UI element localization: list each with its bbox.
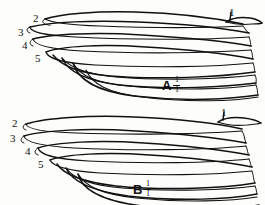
figure-a-edge-hook-3 bbox=[251, 50, 253, 59]
figure-b-edge-hook-2 bbox=[246, 146, 249, 155]
figure-a-band-4-upper bbox=[33, 34, 251, 46]
figure-b-label-3: 3 bbox=[10, 133, 16, 144]
figure-b-scale-numerator: 1 bbox=[145, 180, 151, 188]
figure-a-band-3-lower bbox=[30, 27, 249, 39]
figure-a-edge-hook-2 bbox=[249, 37, 251, 46]
figure-a-label-3: 3 bbox=[18, 27, 24, 38]
figure-a-label-5: 5 bbox=[35, 53, 41, 64]
figure-b-edge-hook-5 bbox=[255, 186, 257, 194]
figure-b-label-1: 1 bbox=[221, 107, 227, 118]
figure-b-band-2-lower bbox=[26, 124, 242, 134]
figure-b-band-2-tip bbox=[23, 124, 26, 130]
figure-b-edge-hook-1 bbox=[242, 131, 246, 143]
figure-a-band-2-lower bbox=[45, 19, 243, 28]
figure-b-caption: B 1 1 bbox=[133, 180, 151, 198]
figure-a-label-2: 2 bbox=[33, 13, 39, 24]
figure-a-scale-numerator: 1 bbox=[174, 76, 180, 84]
figure-b-edge-hook-4 bbox=[252, 171, 255, 183]
figure-b-caption-letter: B bbox=[133, 183, 142, 196]
figure-a-label-1: 1 bbox=[229, 7, 235, 18]
figure-a-edge-hook-5 bbox=[255, 75, 256, 83]
figure-b-label-5: 5 bbox=[38, 159, 44, 170]
figure-a-edge-hook-4 bbox=[253, 63, 255, 72]
figure-a-scale-fraction: 1 1 bbox=[173, 76, 180, 94]
figure-a-edge-hook-6 bbox=[256, 85, 258, 95]
figure-b-label-4: 4 bbox=[25, 146, 31, 157]
figure-b-band-4-tip bbox=[35, 148, 38, 155]
figure-a-scale-denominator: 1 bbox=[174, 86, 180, 94]
figure-a-caption: A 1 1 bbox=[162, 76, 180, 94]
figure-a-band-4-tip bbox=[30, 39, 33, 46]
figure-a-drawing bbox=[0, 0, 265, 102]
figure-a-caption-letter: A bbox=[162, 79, 171, 92]
figure-b-scale-denominator: 1 bbox=[145, 190, 151, 198]
figure-a-label-4: 4 bbox=[22, 40, 28, 51]
figure-b-band-3-tip bbox=[21, 136, 24, 143]
illustration-plate: 1 2 3 4 5 A 1 1 bbox=[0, 0, 265, 205]
figure-b-scale-fraction: 1 1 bbox=[144, 180, 151, 198]
figure-a-band-6-inner bbox=[62, 58, 255, 79]
figure-b-label-2: 2 bbox=[12, 118, 18, 129]
figure-b-band-2-upper bbox=[26, 116, 242, 129]
figure-b-band-1-upper bbox=[218, 118, 261, 123]
